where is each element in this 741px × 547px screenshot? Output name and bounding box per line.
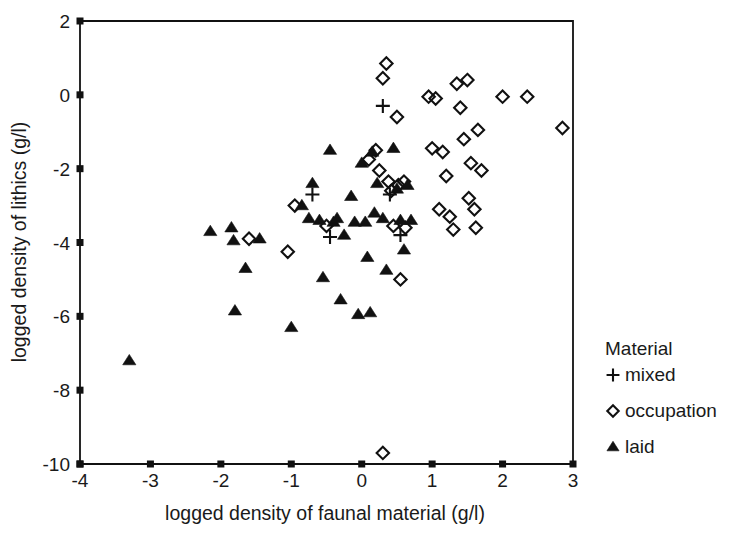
laid-point xyxy=(404,214,417,224)
mixed-point xyxy=(376,99,390,113)
legend-item-mixed[interactable]: mixed xyxy=(607,364,676,385)
occupation-point xyxy=(373,164,385,176)
axis-labels: 20-2-4-6-8-10-4-3-2-10123logged density … xyxy=(8,11,578,524)
occupation-point xyxy=(468,203,480,215)
occupation-point xyxy=(556,122,568,134)
occupation-point xyxy=(380,57,392,69)
y-tick-mark xyxy=(77,387,84,394)
x-tick-mark xyxy=(288,461,295,468)
laid-point xyxy=(306,177,319,187)
occupation-point xyxy=(496,90,508,102)
legend-item-label: laid xyxy=(625,436,655,457)
laid-point xyxy=(359,216,372,226)
occupation-point xyxy=(458,133,470,145)
occupation-point xyxy=(465,157,477,169)
laid-point xyxy=(323,144,336,154)
x-tick-mark xyxy=(499,461,506,468)
legend: Materialmixedoccupationlaid xyxy=(605,338,717,457)
laid-point xyxy=(338,229,351,239)
x-tick-mark xyxy=(77,461,84,468)
occupation-point xyxy=(472,124,484,136)
x-tick-mark xyxy=(217,461,224,468)
laid-point xyxy=(366,146,379,156)
axes xyxy=(77,18,577,468)
mixed-point xyxy=(305,188,319,202)
occupation-point xyxy=(447,223,459,235)
laid-point xyxy=(123,354,136,364)
laid-point xyxy=(361,251,374,261)
occupation-point xyxy=(394,273,406,285)
legend-title: Material xyxy=(605,338,673,359)
plot-canvas: 20-2-4-6-8-10-4-3-2-10123logged density … xyxy=(0,0,741,547)
y-tick-label: -10 xyxy=(43,454,70,475)
y-tick-mark xyxy=(77,165,84,172)
x-tick-label: 0 xyxy=(356,470,367,491)
laid-point xyxy=(302,212,315,222)
series-laid xyxy=(123,142,418,365)
x-tick-label: -4 xyxy=(72,470,89,491)
occupation-point xyxy=(470,222,482,234)
legend-item-label: mixed xyxy=(625,364,676,385)
laid-point xyxy=(316,271,329,281)
y-tick-label: -2 xyxy=(53,159,70,180)
occupation-point xyxy=(391,111,403,123)
x-axis-title: logged density of faunal material (g/l) xyxy=(165,502,485,524)
y-tick-label: -6 xyxy=(53,306,70,327)
occupation-point xyxy=(454,102,466,114)
legend-item-occupation[interactable]: occupation xyxy=(607,400,717,421)
y-tick-mark xyxy=(77,313,84,320)
laid-point xyxy=(345,190,358,200)
axis-spine-left-bottom xyxy=(80,21,573,464)
occupation-point xyxy=(463,192,475,204)
laid-point xyxy=(239,262,252,272)
plus-icon xyxy=(607,369,620,382)
x-tick-mark xyxy=(429,461,436,468)
laid-point xyxy=(368,207,381,217)
y-tick-label: 2 xyxy=(59,11,70,32)
y-axis-title: logged density of lithics (g/l) xyxy=(8,122,30,363)
laid-point xyxy=(380,264,393,274)
y-tick-label: -4 xyxy=(53,233,70,254)
occupation-point xyxy=(433,203,445,215)
x-tick-mark xyxy=(358,461,365,468)
x-tick-label: 1 xyxy=(427,470,438,491)
legend-item-label: occupation xyxy=(625,400,717,421)
laid-point xyxy=(227,234,240,244)
x-tick-mark xyxy=(570,461,577,468)
occupation-point xyxy=(377,447,389,459)
laid-point xyxy=(313,214,326,224)
y-tick-label: 0 xyxy=(59,85,70,106)
laid-point xyxy=(228,305,241,315)
scatter-plot-figure: 20-2-4-6-8-10-4-3-2-10123logged density … xyxy=(0,0,741,547)
laid-point xyxy=(352,308,365,318)
legend-item-laid[interactable]: laid xyxy=(607,436,655,457)
x-tick-label: -2 xyxy=(212,470,229,491)
laid-point xyxy=(225,221,238,231)
occupation-point xyxy=(521,90,533,102)
laid-point xyxy=(364,306,377,316)
axis-frame-top-right xyxy=(80,21,573,464)
laid-point xyxy=(285,321,298,331)
y-tick-mark xyxy=(77,18,84,25)
laid-point xyxy=(397,244,410,254)
laid-point xyxy=(387,142,400,152)
occupation-point xyxy=(282,246,294,258)
data-points xyxy=(123,57,569,459)
series-occupation xyxy=(243,57,569,459)
x-tick-label: 2 xyxy=(497,470,508,491)
y-tick-mark xyxy=(77,91,84,98)
occupation-point xyxy=(377,72,389,84)
x-tick-label: -1 xyxy=(283,470,300,491)
occupation-point xyxy=(444,210,456,222)
y-tick-mark xyxy=(77,239,84,246)
open-diamond-icon xyxy=(607,405,618,416)
occupation-point xyxy=(440,170,452,182)
laid-point xyxy=(204,225,217,235)
occupation-point xyxy=(475,164,487,176)
x-tick-label: 3 xyxy=(568,470,579,491)
x-tick-label: -3 xyxy=(142,470,159,491)
laid-point xyxy=(334,293,347,303)
x-tick-mark xyxy=(147,461,154,468)
y-tick-label: -8 xyxy=(53,380,70,401)
filled-triangle-icon xyxy=(607,441,619,451)
